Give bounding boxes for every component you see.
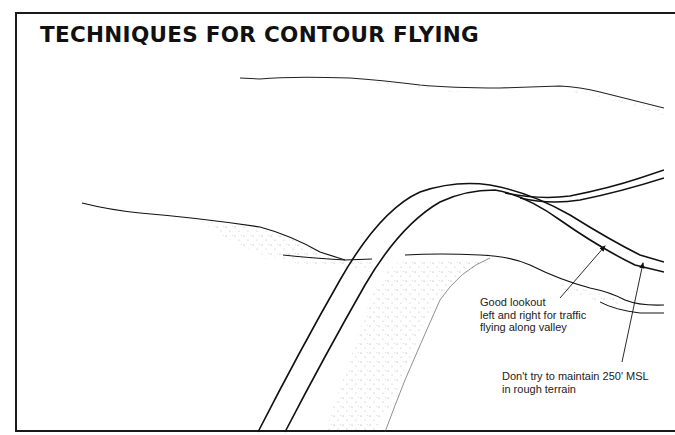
annotation-msl: Don't try to maintain 250' MSL in rough …: [502, 370, 649, 395]
valley-ridge: [325, 254, 664, 432]
left-hill: [82, 203, 372, 272]
distant-ridge: [240, 77, 664, 115]
annotation-lookout: Good lookout left and right for traffic …: [480, 296, 586, 334]
